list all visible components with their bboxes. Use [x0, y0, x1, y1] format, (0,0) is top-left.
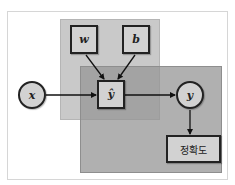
- node-y-hat-label: ŷ: [108, 88, 114, 101]
- node-accuracy: 정확도: [166, 135, 221, 163]
- node-b: b: [122, 25, 150, 54]
- node-x-label: x: [29, 89, 36, 102]
- node-y: y: [176, 81, 204, 109]
- node-y-label: y: [187, 89, 193, 102]
- node-x: x: [18, 81, 46, 109]
- node-accuracy-label: 정확도: [180, 142, 207, 157]
- edge-b-to-yhat: [118, 55, 135, 79]
- node-y-hat: ŷ: [97, 80, 125, 109]
- node-b-label: b: [132, 33, 140, 46]
- node-w: w: [70, 25, 98, 54]
- node-w-label: w: [79, 33, 88, 46]
- edge-w-to-yhat: [86, 55, 104, 79]
